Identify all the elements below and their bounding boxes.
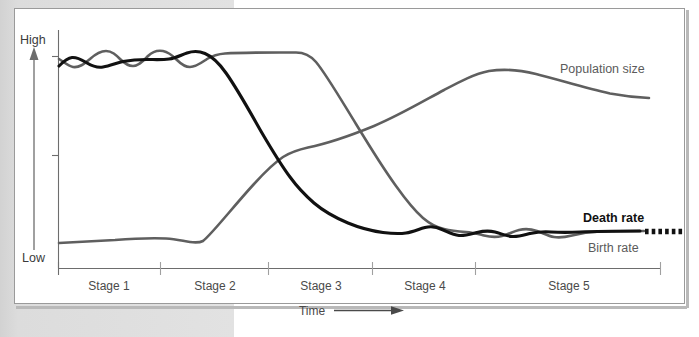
demographic-transition-chart: High Low Stage 1 Stage 2 Stage 3 Stage 4… [0, 0, 699, 337]
figure-page: High Low Stage 1 Stage 2 Stage 3 Stage 4… [0, 0, 699, 337]
x-axis-title: Time [299, 304, 326, 318]
stage-label-3: Stage 3 [300, 279, 342, 293]
stage-label-2: Stage 2 [194, 279, 236, 293]
stage-label-1: Stage 1 [88, 279, 130, 293]
x-axis-arrow-icon [334, 306, 404, 314]
y-axis-low-label: Low [22, 251, 46, 265]
y-axis-arrow-icon [30, 47, 39, 250]
series-population-size-line [59, 70, 649, 243]
series-label-death-rate: Death rate [583, 211, 644, 225]
y-axis-high-label: High [20, 33, 46, 47]
series-label-birth-rate: Birth rate [588, 241, 639, 255]
series-label-population-size: Population size [560, 62, 645, 76]
stage-label-4: Stage 4 [404, 279, 446, 293]
stage-label-5: Stage 5 [548, 279, 590, 293]
